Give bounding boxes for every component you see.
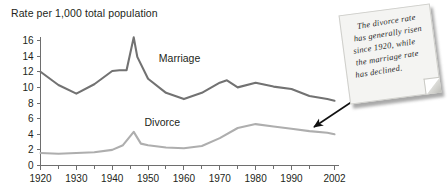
series-line-marriage (41, 37, 335, 100)
sticky-note-text: The divorce rate has generally risen sin… (348, 11, 435, 81)
y-tick-label: 2 (28, 144, 34, 155)
series-label-divorce: Divorce (144, 116, 180, 128)
y-tick-label: 8 (28, 98, 34, 109)
series-label-layer: MarriageDivorce (144, 52, 200, 128)
y-tick-label: 10 (22, 82, 34, 93)
series-label-marriage: Marriage (159, 52, 201, 64)
x-tick-label: 1950 (137, 173, 160, 184)
x-tick-label: 2002 (323, 173, 346, 184)
x-tick-label: 1980 (244, 173, 267, 184)
x-tick-label: 1960 (173, 173, 196, 184)
sticky-note: The divorce rate has generally risen sin… (338, 2, 448, 114)
y-tick-label: 12 (22, 66, 34, 77)
x-tick-label: 1940 (101, 173, 124, 184)
y-tick-label: 16 (22, 35, 34, 46)
x-tick-label: 1970 (209, 173, 232, 184)
chart-screenshot: Rate per 1,000 total population 02468101… (0, 0, 448, 194)
y-tick-label: 6 (28, 113, 34, 124)
y-tick-label: 14 (22, 51, 34, 62)
series-line-divorce (41, 124, 335, 154)
sticky-note-paper: The divorce rate has generally risen sin… (339, 3, 442, 104)
x-tick-label: 1930 (65, 173, 88, 184)
x-tick-label: 1990 (280, 173, 303, 184)
y-tick-label: 0 (28, 160, 34, 171)
x-tick-label: 1920 (29, 173, 52, 184)
sticky-note-corner-curl (424, 77, 442, 95)
y-tick-label: 4 (28, 129, 34, 140)
